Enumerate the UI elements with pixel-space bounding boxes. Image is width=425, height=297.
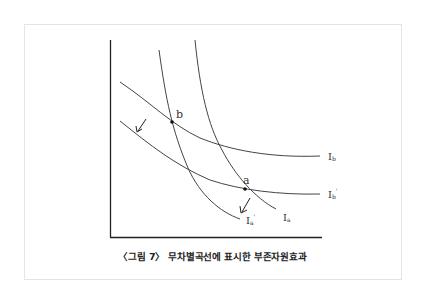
curve-label-ia-prime: Ia': [246, 213, 256, 226]
shift-arrow-ib: [136, 119, 146, 132]
shift-arrow-ia: [240, 198, 250, 213]
point-b: [170, 120, 174, 124]
figure-caption: 〈그림 7〉 무차별곡선에 표시한 부존자원효과: [0, 249, 425, 263]
curve-ia: [195, 40, 276, 209]
curve-label-ib: Ib: [328, 151, 336, 162]
curve-label-ib-prime: Ib': [328, 187, 338, 200]
point-label-b: b: [176, 108, 183, 121]
curve-label-ia: Ia: [283, 212, 291, 223]
curve-ib-prime: [120, 121, 320, 194]
point-a: [243, 187, 247, 191]
point-label-a: a: [243, 174, 250, 187]
